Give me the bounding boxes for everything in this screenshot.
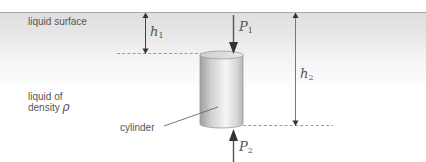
p2-base: P	[239, 139, 248, 154]
h2-label: h2	[300, 66, 313, 82]
h1-subscript: 1	[158, 31, 163, 40]
p1-base: P	[239, 19, 248, 34]
h1-label: h1	[150, 24, 163, 40]
p2-label: P2	[239, 139, 253, 155]
liquid-surface-label: liquid surface	[28, 16, 87, 27]
cylinder-shape	[200, 51, 243, 128]
h2-subscript: 2	[308, 73, 313, 82]
p1-label: P1	[239, 19, 253, 35]
liquid-density-label: liquid of density ρ	[28, 91, 70, 113]
p2-subscript: 2	[248, 146, 253, 155]
p1-subscript: 1	[248, 26, 253, 35]
liquid-density-line2: density ρ	[28, 102, 70, 113]
density-word: density	[28, 102, 60, 113]
cylinder-label: cylinder	[120, 122, 154, 133]
density-symbol: ρ	[62, 100, 69, 114]
p2-force-arrow	[229, 129, 238, 162]
